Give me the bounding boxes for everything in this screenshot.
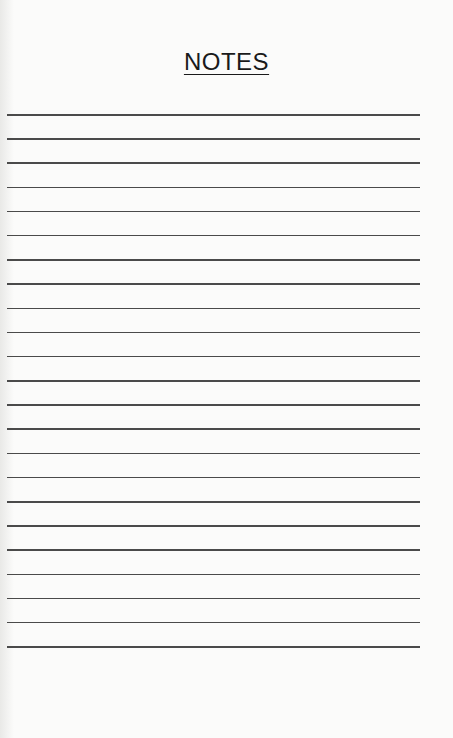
ruled-line	[7, 332, 420, 334]
ruled-line	[7, 211, 420, 213]
ruled-line	[7, 235, 420, 237]
ruled-line	[7, 380, 420, 382]
ruled-line	[7, 308, 420, 310]
ruled-line	[7, 187, 420, 189]
page-header: NOTES	[0, 48, 453, 76]
ruled-line	[7, 622, 420, 624]
ruled-lines	[7, 114, 420, 670]
ruled-line	[7, 428, 420, 430]
ruled-line	[7, 549, 420, 551]
ruled-line	[7, 356, 420, 358]
ruled-line	[7, 646, 420, 648]
ruled-line	[7, 138, 420, 140]
ruled-line	[7, 598, 420, 600]
ruled-line	[7, 162, 420, 164]
ruled-line	[7, 501, 420, 503]
ruled-line	[7, 525, 420, 527]
ruled-line	[7, 477, 420, 479]
ruled-line	[7, 404, 420, 406]
ruled-line	[7, 453, 420, 455]
ruled-line	[7, 574, 420, 576]
ruled-line	[7, 283, 420, 285]
ruled-line	[7, 259, 420, 261]
page-title: NOTES	[184, 48, 269, 75]
ruled-line	[7, 114, 420, 116]
